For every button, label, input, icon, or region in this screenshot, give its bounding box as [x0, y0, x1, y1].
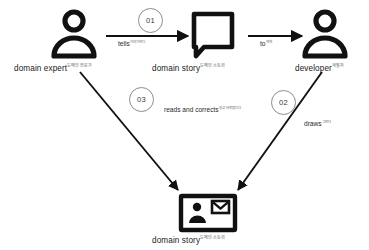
node-label-sup: 개발자: [332, 63, 344, 68]
step-badge-03: 03: [129, 87, 154, 112]
edge-label-tells: tells이야기한다: [118, 39, 145, 47]
edge-label-sup: 그린다: [322, 120, 331, 124]
edge-label-to: to에게: [260, 39, 272, 47]
edge-label-text: reads and corrects: [164, 106, 219, 113]
step-badge-02: 02: [271, 90, 296, 115]
arrow-reads-and-corrects: [80, 72, 178, 190]
node-label-developer: developer개발자: [295, 62, 344, 73]
person-icon-domain-expert: [54, 12, 94, 56]
node-label-text: domain story: [152, 236, 200, 245]
step-badge-01: 01: [138, 8, 163, 33]
node-label-sup: 도메인 스토리: [200, 63, 225, 68]
edge-label-sup: 이야기한다: [130, 40, 145, 44]
edge-label-sup: 에게: [266, 40, 272, 44]
edge-label-draws: draws그린다: [304, 119, 331, 127]
node-label-text: developer: [295, 64, 332, 73]
diagram-canvas: domain expert도메인 전문가 domain story도메인 스토리…: [0, 0, 369, 250]
edge-label-sup: 읽고 바로잡는다: [219, 106, 241, 110]
edge-label-text: draws: [304, 120, 322, 127]
id-card-icon-domain-story: [181, 196, 235, 230]
node-label-domain-story-bubble: domain story도메인 스토리: [152, 62, 225, 73]
person-icon-developer: [305, 12, 345, 56]
node-label-text: domain expert: [14, 64, 67, 73]
step-badge-label: 01: [146, 16, 155, 25]
node-label-domain-expert: domain expert도메인 전문가: [14, 62, 92, 73]
edge-label-reads-and-corrects: reads and corrects읽고 바로잡는다: [164, 105, 241, 113]
step-badge-label: 03: [137, 95, 146, 104]
node-label-text: domain story: [152, 64, 200, 73]
edge-label-text: tells: [118, 40, 130, 47]
speech-bubble-icon: [194, 14, 232, 56]
step-badge-label: 02: [279, 98, 288, 107]
node-label-sup: 도메인 스토리: [200, 235, 225, 240]
node-label-sup: 도메인 전문가: [67, 63, 92, 68]
node-label-domain-story-document: domain story도메인 스토리: [152, 234, 225, 245]
